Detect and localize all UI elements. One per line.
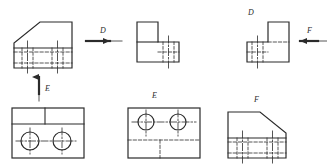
front-view-outline	[14, 22, 72, 68]
view-e-group	[128, 108, 200, 158]
arrow-f-label: F	[307, 27, 312, 35]
side-view-d-group	[137, 22, 179, 68]
view-f-outline	[228, 112, 286, 158]
side-view-f-group	[247, 22, 289, 68]
drawing-sheet: D E F D E F	[0, 0, 327, 168]
arrow-d-label: D	[100, 27, 106, 35]
view-e-label: E	[152, 92, 157, 100]
view-f-label: F	[254, 96, 259, 104]
arrow-e-label: E	[45, 85, 50, 93]
view-f-group	[228, 112, 286, 164]
top-view-e-group	[12, 108, 84, 158]
top-view-e-outline	[12, 108, 84, 158]
view-e-outline	[128, 108, 200, 158]
front-view-group	[14, 22, 72, 74]
view-d-label: D	[248, 9, 254, 17]
